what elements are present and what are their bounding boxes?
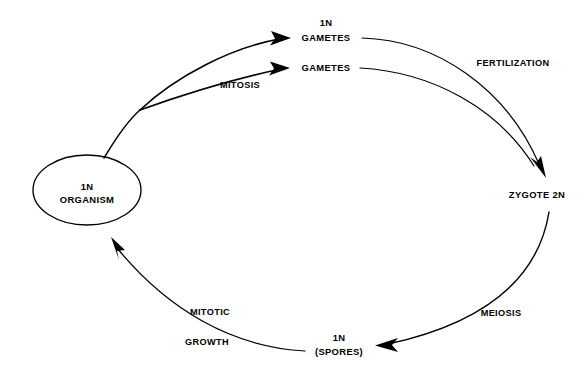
meiosis-arrowhead — [375, 338, 398, 352]
label-mitosis: MITOSIS — [220, 80, 260, 90]
node-spores: 1N (SPORES) — [315, 332, 363, 357]
fertilization-arrowhead — [530, 156, 546, 178]
mitotic-growth-arrowhead — [111, 237, 125, 260]
node-gametes-upper: 1N GAMETES — [302, 17, 351, 43]
fertilization-lower-arc — [360, 68, 534, 166]
node-organism: 1N ORGANISM — [33, 155, 141, 225]
connector-gametes-upper-to-zygote — [362, 38, 539, 164]
organism-label-line1: 1N — [81, 181, 94, 192]
meiosis-arc — [388, 212, 549, 344]
life-cycle-canvas: 1N ORGANISM MITOSIS 1N GAMETES GAMETES — [0, 0, 586, 381]
organism-label-line2: ORGANISM — [60, 194, 114, 205]
label-fertilization: FERTILIZATION — [477, 58, 550, 68]
connector-zygote-to-spores — [375, 212, 549, 352]
label-meiosis: MEIOSIS — [481, 308, 522, 318]
mitosis-shared-stem — [104, 110, 140, 158]
spores-label-line2: (SPORES) — [315, 346, 363, 357]
label-mitotic: MITOTIC — [190, 307, 230, 317]
gametes-upper-label-line2: GAMETES — [302, 32, 351, 43]
fertilization-upper-arc — [362, 38, 539, 164]
mitotic-growth-arc — [117, 248, 305, 351]
life-cycle-diagram: 1N ORGANISM MITOSIS 1N GAMETES GAMETES — [0, 0, 586, 381]
mitosis-upper-arrowhead — [270, 31, 291, 46]
node-gametes-lower: GAMETES — [302, 62, 351, 73]
spores-label-line1: 1N — [333, 332, 346, 343]
connector-gametes-lower-to-zygote — [360, 68, 546, 178]
mitosis-lower-arrowhead — [269, 62, 290, 76]
connector-spores-to-organism — [111, 237, 305, 351]
node-zygote: ZYGOTE 2N — [509, 189, 565, 200]
label-growth: GROWTH — [185, 337, 229, 347]
gametes-lower-label: GAMETES — [302, 62, 351, 73]
zygote-label: ZYGOTE 2N — [509, 189, 565, 200]
connector-organism-to-gametes-upper — [104, 31, 291, 158]
gametes-upper-label-line1: 1N — [320, 17, 333, 28]
connector-organism-to-gametes-lower — [140, 62, 290, 111]
